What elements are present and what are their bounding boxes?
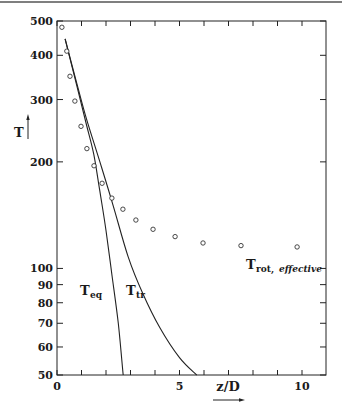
label-trot-sub: rot, — [256, 264, 274, 275]
label-trot: T rot, effective — [246, 257, 322, 275]
trot-data-point — [151, 227, 155, 231]
label-trot-main: T — [246, 257, 256, 272]
label-ttr-main: T — [126, 283, 136, 298]
x-tick-label: 10 — [294, 380, 310, 393]
trot-data-point — [121, 207, 125, 211]
trot-data-point — [79, 124, 83, 128]
y-tick-label: 50 — [38, 369, 54, 382]
trot-data-point — [73, 99, 77, 103]
trot-data-point — [110, 196, 114, 200]
y-axis-ticks: 5004003002001009080706050 — [30, 15, 326, 382]
label-teq-sub: eq — [90, 290, 103, 300]
y-tick-label: 300 — [30, 94, 53, 107]
x-axis-title-text: z/D — [216, 379, 239, 394]
trot-data-point — [85, 146, 89, 150]
x-axis-title: z/D — [213, 379, 245, 402]
trot-data-point — [295, 245, 299, 249]
trot-data-point — [134, 218, 138, 222]
label-ttr: T tr — [126, 283, 145, 300]
chart: 0510 5004003002001009080706050 T z/D T e… — [0, 0, 342, 418]
x-tick-label: 0 — [53, 380, 61, 393]
x-axis-ticks: 0510 — [53, 21, 310, 393]
label-trot-sub-italic: effective — [279, 264, 322, 274]
y-axis-title-text: T — [14, 125, 24, 140]
y-tick-label: 80 — [38, 297, 54, 310]
trot-data-point — [100, 181, 104, 185]
y-tick-label: 100 — [30, 262, 53, 275]
label-ttr-sub: tr — [136, 290, 145, 300]
label-teq: T eq — [80, 283, 103, 300]
y-tick-label: 70 — [38, 317, 54, 330]
trot-data-point — [201, 241, 205, 245]
y-tick-label: 60 — [38, 341, 54, 354]
y-axis-title: T — [14, 114, 30, 140]
trot-data-point — [92, 164, 96, 168]
chart-canvas: 0510 5004003002001009080706050 T z/D T e… — [0, 0, 342, 418]
trot-data-point — [239, 243, 243, 247]
x-axis-arrowhead-icon — [239, 398, 245, 401]
curve-tr — [65, 39, 197, 375]
y-tick-label: 400 — [30, 49, 53, 62]
x-tick-label: 5 — [176, 380, 184, 393]
y-axis-arrowhead-icon — [26, 114, 29, 120]
curve-eq — [65, 39, 123, 375]
trot-data-point — [173, 234, 177, 238]
y-tick-label: 200 — [30, 156, 53, 169]
trot-data-point — [60, 25, 64, 29]
series-layer — [60, 25, 300, 375]
label-teq-main: T — [80, 283, 90, 298]
y-tick-label: 90 — [38, 279, 54, 292]
trot-data-point — [65, 49, 69, 53]
y-tick-label: 500 — [30, 15, 53, 28]
trot-data-point — [68, 74, 72, 78]
plot-frame — [57, 21, 326, 375]
